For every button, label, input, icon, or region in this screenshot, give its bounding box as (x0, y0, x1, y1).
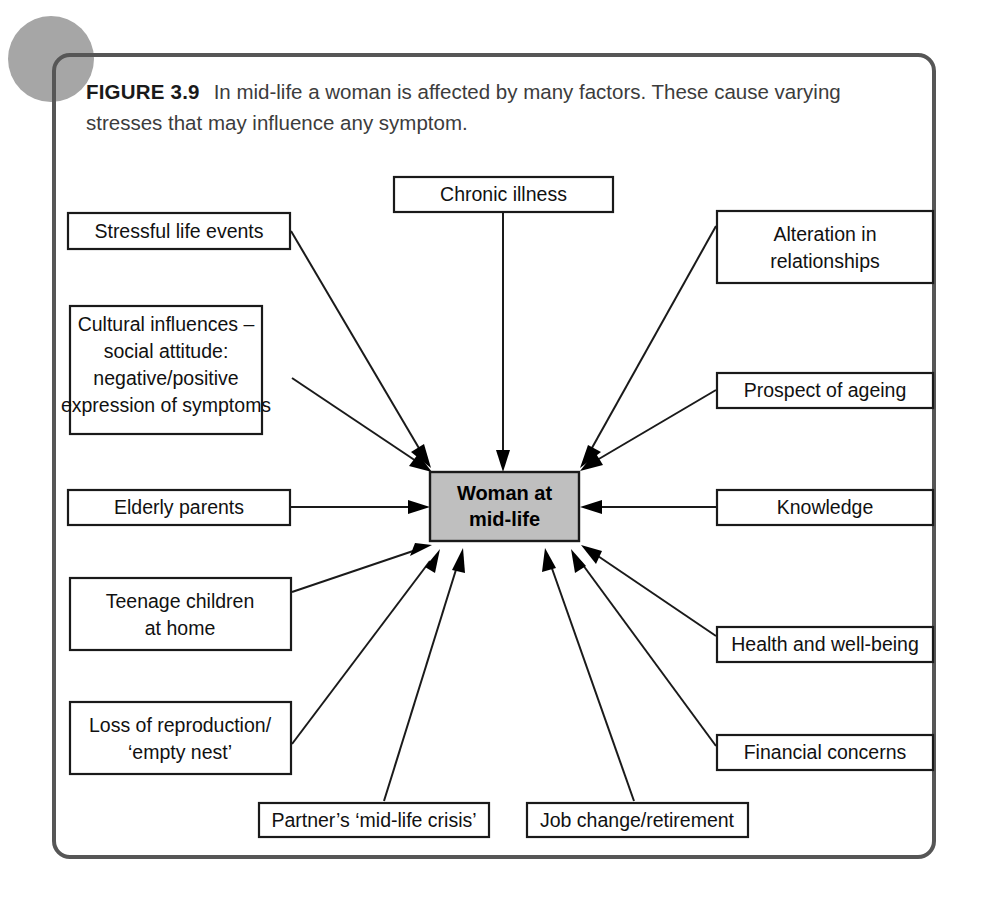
edge-health-and-well-being (592, 552, 716, 636)
arrowhead-partners-mid-life-crisis (452, 548, 465, 573)
arrowhead-teenage-children (410, 543, 432, 556)
edge-prospect-of-ageing (592, 390, 716, 463)
node-stressful-life-events[interactable]: Stressful life events (68, 213, 290, 249)
influences-diagram: Chronic illness Stressful life events Cu… (0, 0, 995, 906)
edge-cultural-influences (292, 378, 419, 463)
node-prospect-of-ageing-label: Prospect of ageing (744, 379, 907, 401)
node-job-change-retirement-label: Job change/retirement (540, 809, 735, 831)
node-teenage-children-label-line1: Teenage children (106, 590, 255, 612)
node-teenage-children-label-line2: at home (145, 617, 215, 639)
figure-page: FIGURE 3.9In mid-life a woman is affecte… (0, 0, 995, 906)
node-elderly-parents-label: Elderly parents (114, 496, 244, 518)
node-health-and-well-being[interactable]: Health and well-being (717, 627, 933, 662)
node-loss-of-reproduction[interactable]: Loss of reproduction/ ‘empty nest’ (70, 702, 291, 774)
edge-teenage-children (292, 549, 419, 592)
node-knowledge-label: Knowledge (777, 496, 874, 518)
node-chronic-illness-label: Chronic illness (440, 183, 567, 205)
node-teenage-children[interactable]: Teenage children at home (70, 578, 291, 650)
node-job-change-retirement[interactable]: Job change/retirement (527, 803, 748, 837)
arrowhead-health-and-well-being (581, 545, 602, 564)
arrowhead-knowledge (580, 500, 602, 514)
node-loss-of-reproduction-label-line2: ‘empty nest’ (128, 741, 232, 763)
node-cultural-influences-label-line3: negative/positive (93, 367, 238, 389)
node-financial-concerns-label: Financial concerns (744, 741, 907, 763)
edge-alteration-in-relationships (588, 226, 716, 455)
node-partners-mid-life-crisis-label: Partner’s ‘mid-life crisis’ (271, 809, 476, 831)
node-loss-of-reproduction-label-line1: Loss of reproduction/ (89, 714, 272, 736)
arrowhead-chronic-illness (496, 450, 510, 472)
node-prospect-of-ageing[interactable]: Prospect of ageing (717, 373, 933, 408)
node-knowledge[interactable]: Knowledge (717, 490, 933, 525)
center-label-line1: Woman at (457, 482, 553, 504)
node-center-woman-at-mid-life[interactable]: Woman at mid-life (430, 472, 579, 541)
center-label-line2: mid-life (469, 508, 540, 530)
node-alteration-in-relationships[interactable]: Alteration in relationships (717, 211, 933, 283)
node-alteration-in-relationships-label-line1: Alteration in (774, 223, 877, 245)
node-financial-concerns[interactable]: Financial concerns (717, 735, 933, 770)
node-alteration-in-relationships-box[interactable] (717, 211, 933, 283)
node-health-and-well-being-label: Health and well-being (731, 633, 919, 655)
node-alteration-in-relationships-label-line2: relationships (770, 250, 880, 272)
node-cultural-influences-label-line1: Cultural influences – (78, 313, 255, 335)
node-cultural-influences-label-line4: expression of symptoms (61, 394, 271, 416)
arrowhead-elderly-parents (408, 500, 430, 514)
arrowhead-loss-of-reproduction (425, 549, 440, 573)
edge-job-change-retirement (549, 560, 634, 801)
arrowhead-financial-concerns (571, 549, 586, 573)
arrowhead-job-change-retirement (542, 548, 556, 572)
node-cultural-influences[interactable]: Cultural influences – social attitude: n… (61, 306, 271, 434)
node-loss-of-reproduction-box[interactable] (70, 702, 291, 774)
node-partners-mid-life-crisis[interactable]: Partner’s ‘mid-life crisis’ (259, 803, 489, 837)
node-teenage-children-box[interactable] (70, 578, 291, 650)
edge-partners-mid-life-crisis (384, 560, 459, 801)
node-cultural-influences-label-line2: social attitude: (104, 340, 229, 362)
node-stressful-life-events-label: Stressful life events (94, 220, 263, 242)
node-elderly-parents[interactable]: Elderly parents (68, 490, 290, 525)
node-chronic-illness[interactable]: Chronic illness (394, 177, 613, 212)
